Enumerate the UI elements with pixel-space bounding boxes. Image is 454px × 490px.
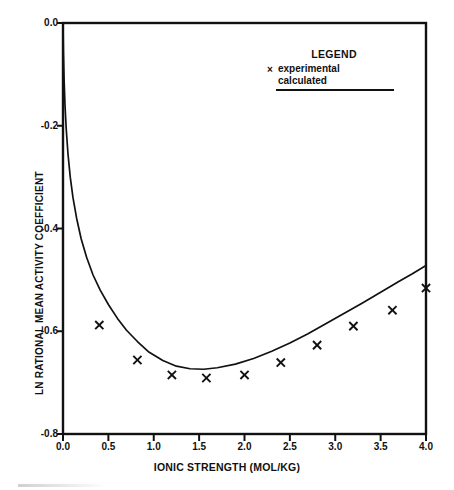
x-tick-label: 3.5 bbox=[361, 441, 401, 452]
y-tick-label: -0.8 bbox=[24, 428, 58, 439]
x-tick-label: 2.0 bbox=[225, 441, 265, 452]
scan-artifact bbox=[18, 484, 138, 487]
x-tick-label: 2.5 bbox=[270, 441, 310, 452]
legend-label-experimental: experimental bbox=[278, 63, 340, 75]
x-tick-label: 3.0 bbox=[315, 441, 355, 452]
y-axis-title: LN RATIONAL MEAN ACTIVITY COEFFICIENT bbox=[34, 171, 45, 395]
series-points-experimental bbox=[95, 284, 430, 382]
y-tick-label: -0.4 bbox=[24, 223, 58, 234]
legend-label-calculated: calculated bbox=[278, 75, 340, 87]
legend-marker-x-icon: × bbox=[262, 63, 278, 76]
x-tick-label: 4.0 bbox=[406, 441, 446, 452]
x-axis-title: IONIC STRENGTH (MOL/KG) bbox=[0, 461, 454, 473]
y-tick-label: -0.6 bbox=[24, 325, 58, 336]
chart-legend: LEGEND × experimental calculated bbox=[262, 48, 392, 91]
legend-entries: × experimental calculated bbox=[262, 63, 392, 87]
y-tick-label: -0.2 bbox=[24, 120, 58, 131]
x-tick-label: 0.5 bbox=[88, 441, 128, 452]
legend-title: LEGEND bbox=[276, 48, 392, 60]
x-tick-label: 0.0 bbox=[43, 441, 83, 452]
x-tick-label: 1.0 bbox=[134, 441, 174, 452]
chart-figure: LN RATIONAL MEAN ACTIVITY COEFFICIENT IO… bbox=[0, 0, 454, 490]
y-tick-label: 0.0 bbox=[24, 17, 58, 28]
x-tick-label: 1.5 bbox=[179, 441, 219, 452]
legend-line-sample-icon bbox=[276, 89, 394, 91]
